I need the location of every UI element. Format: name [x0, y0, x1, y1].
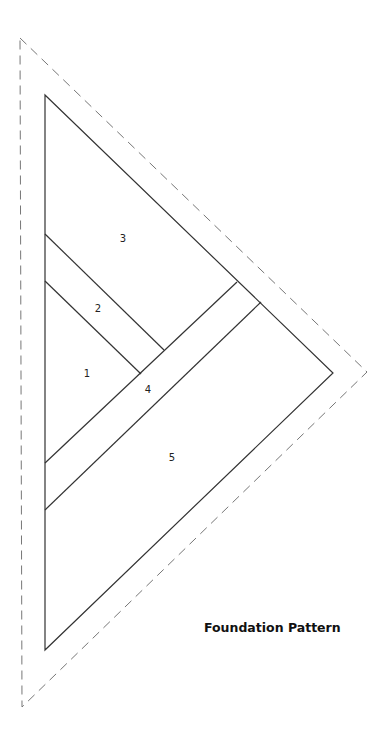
- piece-label-1: 1: [84, 369, 90, 379]
- seam-4-5-line: [45, 302, 261, 510]
- seam-3-2-line: [45, 234, 164, 350]
- piece-label-2: 2: [95, 304, 101, 314]
- piece-label-4: 4: [145, 385, 151, 395]
- piece-label-5: 5: [169, 453, 175, 463]
- seam-lines: [45, 234, 261, 510]
- seam-2-1-line: [45, 281, 141, 374]
- piece-label-3: 3: [120, 234, 126, 244]
- seam-allowance-outline: [20, 38, 367, 707]
- pattern-title: Foundation Pattern: [204, 620, 341, 635]
